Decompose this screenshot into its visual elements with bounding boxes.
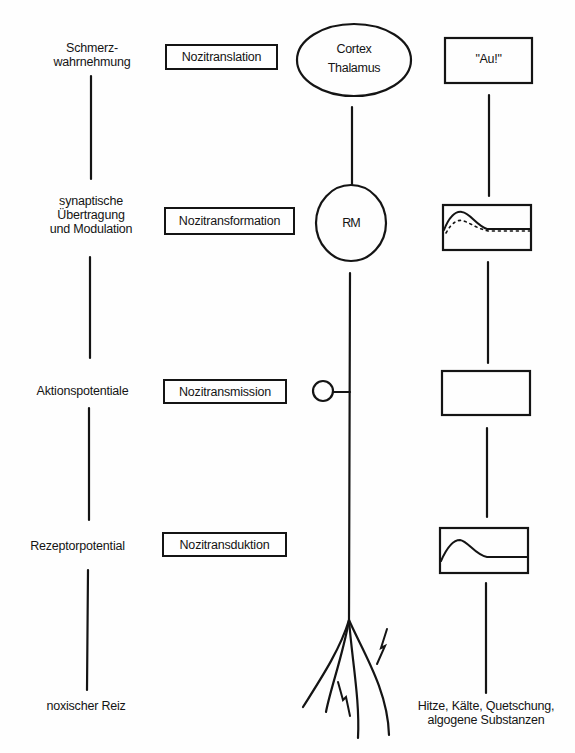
process-box-nozitransformation: Nozitransformation	[164, 207, 295, 235]
label-line: und Modulation	[38, 222, 144, 236]
label-line: synaptische	[38, 194, 144, 208]
receptor-graph-box	[440, 528, 528, 573]
cell-body-circle	[313, 381, 333, 401]
label-line: algogene Substanzen	[400, 713, 572, 727]
label-line: Übertragung	[38, 208, 144, 222]
label-rezeptorpotential: Rezeptorpotential	[20, 539, 135, 553]
cortex-thalamus-label: Cortex Thalamus	[304, 40, 404, 78]
rm-label: RM	[321, 214, 381, 233]
stimulus-types-label: Hitze, Kälte, Quetschung, algogene Subst…	[400, 699, 572, 727]
diagram-lines	[0, 0, 575, 753]
label-line: Hitze, Kälte, Quetschung,	[400, 699, 572, 713]
node-line: Thalamus	[304, 59, 404, 78]
modulated-potential-curve	[446, 220, 530, 233]
label-noxischer-reiz: noxischer Reiz	[36, 699, 136, 713]
action-potential-box	[442, 371, 530, 415]
label-schmerzwahrnehmung: Schmerz- wahrnehmung	[44, 41, 140, 69]
label-line: Rezeptorpotential	[20, 539, 135, 553]
receptor-potential-curve	[441, 540, 527, 561]
lightning-bolt-icon	[338, 682, 350, 716]
process-box-nozitransduktion: Nozitransduktion	[162, 532, 287, 557]
modulation-graph-box	[443, 205, 531, 250]
label-line: wahrnehmung	[44, 55, 140, 69]
label-line: Schmerz-	[44, 41, 140, 55]
label-line: noxischer Reiz	[36, 699, 136, 713]
node-line: RM	[321, 214, 381, 233]
lightning-bolt-icon	[377, 629, 387, 664]
process-box-nozitranslation: Nozitranslation	[165, 44, 278, 70]
label-aktionspotentiale: Aktionspotentiale	[25, 384, 140, 398]
node-line: Cortex	[304, 40, 404, 59]
potential-curve	[444, 212, 530, 230]
label-line: Aktionspotentiale	[25, 384, 140, 398]
au-label: "Au!"	[445, 50, 532, 69]
left-connector-4	[87, 570, 88, 690]
process-box-nozitransmission: Nozitransmission	[163, 379, 287, 404]
label-synaptische-uebertragung: synaptische Übertragung und Modulation	[38, 194, 144, 236]
axon-line	[349, 273, 350, 620]
